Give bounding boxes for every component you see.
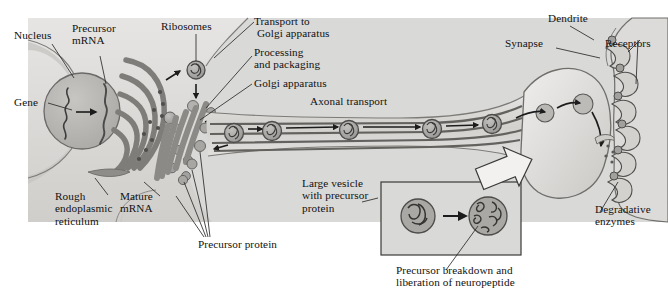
- label-precursor-protein: Precursor protein: [198, 238, 277, 250]
- label-dendrite: Dendrite: [548, 12, 588, 24]
- inset-vesicle-precursor: [401, 199, 435, 233]
- label-synapse: Synapse: [505, 37, 543, 49]
- label-golgi-apparatus: Golgi apparatus: [254, 77, 327, 89]
- label-rough-endoplasmic-reticulum: Rough endoplasmic reticulum: [55, 190, 113, 227]
- label-ribosomes: Ribosomes: [161, 20, 212, 32]
- label-degradative-enzymes: Degradative enzymes: [595, 203, 651, 228]
- label-inset-caption: Precursor breakdown and liberation of ne…: [396, 264, 515, 289]
- inset-vesicle-neuropeptide: [469, 197, 507, 235]
- presynaptic-terminal: [521, 69, 611, 199]
- label-axonal-transport: Axonal transport: [310, 95, 387, 107]
- label-precursor-mrna: Precursor mRNA: [72, 22, 116, 47]
- nucleus: [44, 73, 120, 149]
- label-nucleus: Nucleus: [14, 29, 51, 41]
- axon-vesicle: [423, 120, 442, 139]
- label-gene: Gene: [14, 96, 38, 108]
- axon-vesicle: [225, 124, 244, 143]
- label-processing-and-packaging: Processing and packaging: [254, 46, 320, 71]
- label-receptors: Receptors: [605, 37, 651, 49]
- axon-vesicle: [263, 122, 282, 141]
- axon-vesicle: [340, 121, 359, 140]
- label-mature-mrna: Mature mRNA: [120, 190, 153, 215]
- neuron-peptide-diagram: Nucleus Precursor mRNA Gene Ribosomes Tr…: [0, 0, 668, 299]
- inset-box: [381, 182, 521, 255]
- axon-vesicle: [483, 115, 502, 134]
- label-transport-to-golgi: Transport to Golgi apparatus: [254, 15, 330, 40]
- label-large-vesicle-with-precursor-protein: Large vesicle with precursor protein: [302, 177, 368, 214]
- free-ribosome: [187, 61, 205, 79]
